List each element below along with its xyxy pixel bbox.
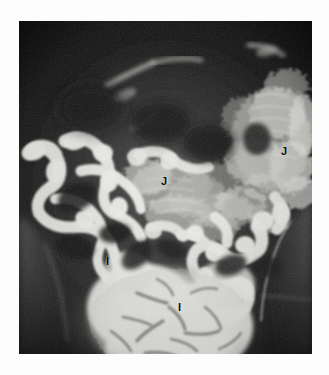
small-bowel-follow-through-radiograph: [19, 21, 312, 354]
page-root: J J I I: [0, 0, 329, 375]
annotation-marker-j-right: J: [281, 146, 287, 157]
annotation-marker-i-left: I: [106, 256, 109, 267]
radiograph-image: [19, 21, 312, 354]
annotation-marker-i-center: I: [178, 302, 181, 313]
annotation-marker-j-center: J: [161, 176, 167, 187]
film-vignette: [19, 21, 312, 354]
